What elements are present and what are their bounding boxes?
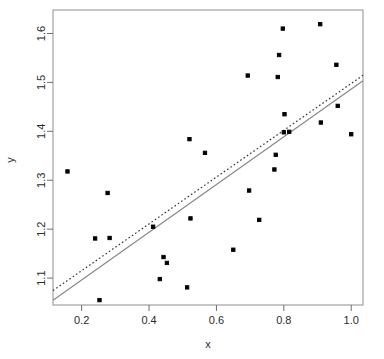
- scatter-point: [151, 225, 154, 228]
- scatter-point: [282, 131, 285, 134]
- scatter-point: [188, 137, 191, 140]
- scatter-point: [185, 286, 188, 289]
- scatter-point: [283, 113, 286, 116]
- y-tick-label: 1.1: [35, 270, 47, 285]
- x-tick-label: 0.2: [74, 314, 89, 326]
- scatter-point: [232, 248, 235, 251]
- scatter-point: [106, 191, 109, 194]
- x-tick-label: 0.4: [141, 314, 156, 326]
- scatter-point: [158, 277, 161, 280]
- y-tick-label: 1.6: [35, 26, 47, 41]
- scatter-point: [189, 217, 192, 220]
- y-tick-label: 1.3: [35, 173, 47, 188]
- scatter-point: [247, 189, 250, 192]
- scatter-point: [350, 133, 353, 136]
- scatter-point: [108, 236, 111, 239]
- chart-canvas: 0.20.40.60.81.0 1.11.21.31.41.51.6 x y: [0, 0, 384, 359]
- scatter-point: [335, 63, 338, 66]
- scatter-point: [246, 74, 249, 77]
- scatter-point: [277, 53, 280, 56]
- scatter-point: [288, 130, 291, 133]
- x-tick-label: 0.6: [209, 314, 224, 326]
- scatter-point: [319, 121, 322, 124]
- x-tick-label: 1.0: [344, 314, 359, 326]
- scatter-point: [276, 75, 279, 78]
- y-tick-label: 1.2: [35, 222, 47, 237]
- x-axis-title: x: [205, 338, 211, 350]
- scatter-point: [258, 218, 261, 221]
- scatter-point: [281, 27, 284, 30]
- scatter-point: [66, 170, 69, 173]
- scatter-point: [165, 261, 168, 264]
- y-tick-label: 1.4: [35, 124, 47, 139]
- y-tick-label: 1.5: [35, 75, 47, 90]
- scatter-point: [203, 151, 206, 154]
- scatter-point: [273, 168, 276, 171]
- scatter-point: [162, 255, 165, 258]
- y-axis-title: y: [4, 157, 16, 163]
- scatter-point: [336, 104, 339, 107]
- x-tick-label: 0.8: [276, 314, 291, 326]
- scatter-point: [98, 298, 101, 301]
- scatter-point: [274, 153, 277, 156]
- scatter-point: [93, 237, 96, 240]
- scatter-plot-figure: 0.20.40.60.81.0 1.11.21.31.41.51.6 x y: [0, 0, 384, 359]
- scatter-point: [319, 22, 322, 25]
